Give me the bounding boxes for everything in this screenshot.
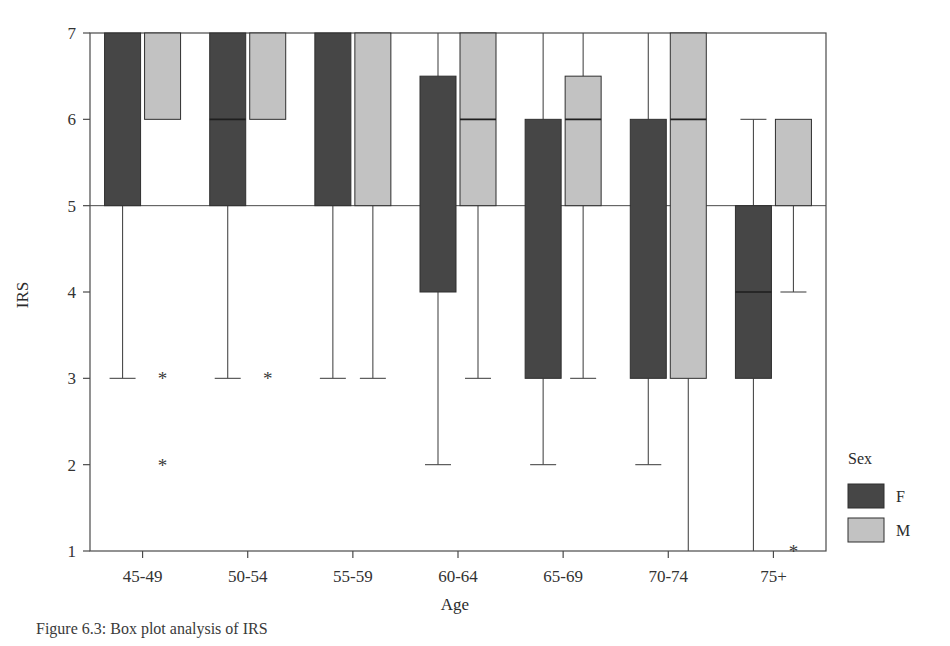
y-axis-title: IRS — [13, 282, 32, 308]
box-rect — [670, 33, 706, 378]
box-rect — [525, 119, 561, 378]
figure-caption: Figure 6.3: Box plot analysis of IRS — [36, 620, 268, 646]
legend-label-male: M — [896, 522, 910, 539]
box-rect — [105, 33, 141, 206]
y-tick-label: 6 — [68, 110, 77, 129]
figure-container: 1234567 45-4950-5455-5960-6465-6970-7475… — [0, 0, 950, 646]
box-rect — [630, 119, 666, 378]
y-tick-label: 7 — [68, 24, 77, 43]
legend-title: Sex — [848, 450, 872, 467]
box-rect — [565, 76, 601, 206]
y-tick-label: 4 — [68, 283, 77, 302]
x-tick-label: 60-64 — [438, 567, 478, 586]
y-tick-label: 3 — [68, 369, 77, 388]
y-tick-label: 1 — [68, 542, 77, 561]
box-plot-item — [250, 33, 286, 119]
outlier-marker: * — [263, 368, 273, 389]
x-tick-label: 65-69 — [543, 567, 583, 586]
outlier-marker: * — [158, 455, 168, 476]
legend-label-female: F — [896, 488, 905, 505]
legend-swatch-male — [848, 518, 884, 542]
x-tick-label: 75+ — [760, 567, 787, 586]
x-axis-title: Age — [441, 595, 469, 614]
box-plot-chart: 1234567 45-4950-5455-5960-6465-6970-7475… — [0, 0, 950, 646]
box-rect — [315, 33, 351, 206]
x-tick-label: 45-49 — [123, 567, 163, 586]
x-tick-label: 70-74 — [648, 567, 688, 586]
box-rect — [775, 119, 811, 205]
x-tick-label: 50-54 — [228, 567, 268, 586]
x-tick-label: 55-59 — [333, 567, 373, 586]
box-rect — [145, 33, 181, 119]
y-tick-label: 5 — [68, 197, 77, 216]
box-rect — [420, 76, 456, 292]
box-rect — [250, 33, 286, 119]
outlier-marker: * — [158, 368, 168, 389]
legend-swatch-female — [848, 484, 884, 508]
box-plot-item — [145, 33, 181, 119]
y-tick-label: 2 — [68, 456, 77, 475]
outlier-marker: * — [789, 541, 799, 562]
box-rect — [355, 33, 391, 206]
